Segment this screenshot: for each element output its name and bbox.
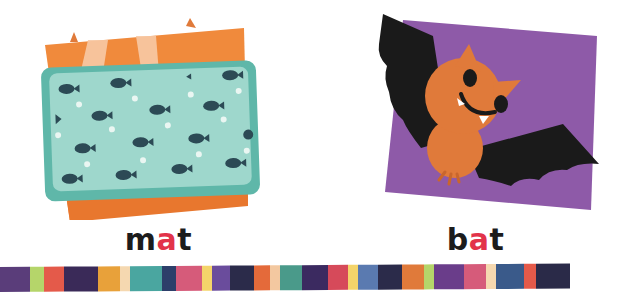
stripe-segment	[254, 265, 270, 290]
stripe-segment	[130, 266, 162, 291]
stripe-segment	[424, 264, 434, 289]
stripe-segment	[120, 266, 130, 291]
stripe-segment	[302, 265, 328, 290]
stripe-segment	[280, 265, 302, 290]
stripe-segment	[496, 264, 524, 289]
stripe-segment	[98, 266, 120, 291]
stripe-segment	[202, 266, 212, 291]
card-bat: bat	[317, 0, 634, 260]
vowel-highlight: a	[157, 222, 178, 257]
word-label-bat: bat	[317, 222, 634, 257]
onset: m	[125, 222, 157, 257]
stripe-segment	[402, 264, 424, 289]
stripe-segment	[212, 266, 230, 291]
card-mat: mat	[0, 0, 317, 260]
word-label-mat: mat	[0, 222, 317, 257]
stripe-segment	[328, 265, 348, 290]
stripe-segment	[348, 265, 358, 290]
stripe-segment	[44, 267, 64, 292]
stripe-segment	[0, 267, 30, 292]
vowel-highlight: a	[469, 222, 490, 257]
coda: t	[489, 222, 504, 257]
stripe-segment	[30, 267, 44, 292]
stripe-segment	[486, 264, 496, 289]
stripe-segment	[176, 266, 202, 291]
stripe-segment	[162, 266, 176, 291]
coda: t	[177, 222, 192, 257]
stripe-segment	[464, 264, 486, 289]
stripe-segment	[524, 264, 536, 289]
fish-mat-icon	[0, 0, 317, 220]
stripe-segment	[358, 265, 378, 290]
stripe-segment	[536, 264, 570, 289]
stripe-segment	[378, 265, 402, 290]
stripe-segment	[64, 266, 98, 291]
onset: b	[447, 222, 469, 257]
stripe-segment	[270, 265, 280, 290]
bat-icon	[317, 0, 634, 220]
stripe-segment	[434, 264, 464, 289]
stripe-segment	[230, 265, 254, 290]
decorative-stripe-border	[0, 263, 634, 292]
